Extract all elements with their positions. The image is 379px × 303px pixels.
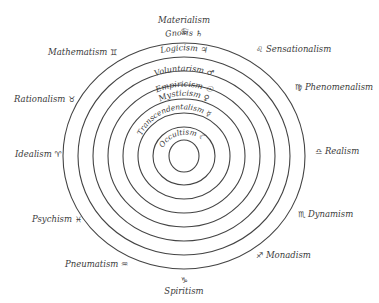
label-rationalism: Rationalism ♉ [13, 94, 75, 104]
sagittarius-icon: ♐ [256, 251, 263, 260]
label-phenomenalism: ♍ Phenomenalism [295, 82, 373, 92]
rings [63, 43, 305, 269]
ring-8 [169, 140, 199, 172]
pisces-icon: ♓ [75, 215, 82, 224]
capricorn-icon: ♑ [180, 276, 187, 285]
label-sensationalism: ♌ Sensationalism [256, 44, 331, 54]
ring-label-occultism: Occultism ☾ [157, 127, 208, 149]
ring-label-logicism: Logicism ♃ [159, 43, 209, 55]
saturn-icon: ♄ [195, 29, 203, 39]
aquarius-icon: ♒ [121, 260, 128, 269]
libra-icon: ♎ [315, 147, 322, 156]
aries-icon: ♈ [54, 150, 61, 159]
label-idealism: Idealism ♈ [14, 149, 62, 159]
jupiter-icon: ♃ [200, 45, 209, 55]
ring-1 [63, 43, 305, 269]
label-mathematism: Mathematism ♊ [47, 47, 117, 57]
cancer-icon: ♋ [180, 27, 187, 36]
label-materialism: Materialism [157, 15, 210, 25]
taurus-icon: ♉ [68, 95, 75, 104]
label-realism: ♎ Realism [315, 146, 359, 156]
label-pneumatism: Pneumatism ♒ [64, 259, 128, 269]
moon-icon: ☾ [197, 132, 208, 143]
scorpio-icon: ♏ [298, 210, 306, 219]
virgo-icon: ♍ [295, 83, 302, 92]
label-monadism: ♐ Monadism [256, 250, 311, 260]
ring-label-voluntarism: Voluntarism ♂ [153, 64, 215, 78]
label-dynamism: ♏ Dynamism [298, 209, 353, 219]
mars-icon: ♂ [205, 67, 215, 78]
label-psychism: Psychism ♓ [31, 214, 82, 224]
label-spiritism: Spiritism [164, 286, 203, 296]
ring-5 [123, 99, 245, 213]
ring-6 [138, 113, 230, 199]
worldviews-circle-diagram: Gnosis ♄ Logicism ♃ Voluntarism ♂ Empiri… [0, 0, 379, 303]
leo-icon: ♌ [256, 45, 263, 54]
gemini-icon: ♊ [110, 48, 117, 57]
